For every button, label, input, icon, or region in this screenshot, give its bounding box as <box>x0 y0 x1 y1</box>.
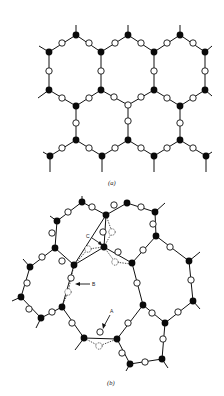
network-diagram: (a) <box>0 0 224 396</box>
annotation-a-label: A <box>110 308 114 314</box>
annotation-a: A <box>102 308 114 329</box>
bridging-atoms-a <box>46 40 208 151</box>
network-atoms-a <box>46 32 210 160</box>
defect-atoms-b <box>65 229 118 349</box>
panel-b-network: C B A <box>12 196 200 371</box>
bridging-atoms-b <box>24 202 194 365</box>
annotation-b: B <box>75 281 96 287</box>
annotation-c: C <box>86 233 103 246</box>
annotation-b-label: B <box>92 281 96 287</box>
panel-a-label: (a) <box>108 179 116 187</box>
panel-a-network <box>38 25 212 172</box>
network-atoms-b <box>18 199 197 368</box>
annotation-c-label: C <box>86 233 90 239</box>
panel-b-label: (b) <box>107 379 115 387</box>
